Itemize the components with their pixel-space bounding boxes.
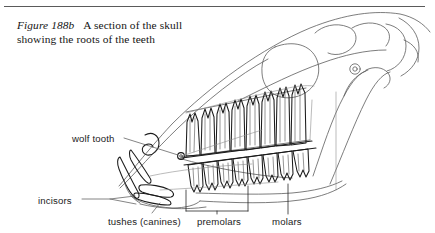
leader-incisors-branch xyxy=(110,199,136,204)
upper-incisors-group xyxy=(118,150,151,198)
occipital-outline xyxy=(386,24,406,71)
leader-incisors xyxy=(82,196,135,199)
lower-tooth-3 xyxy=(218,159,233,188)
orbit-outline xyxy=(262,44,319,98)
mandible-condyle xyxy=(366,68,390,88)
upper-tooth-8 xyxy=(291,84,306,145)
upper-tooth-5 xyxy=(246,95,260,150)
wolf-tooth-mark xyxy=(178,153,185,160)
mandible-coronoid xyxy=(344,71,366,96)
lower-tooth-5 xyxy=(248,155,263,184)
mandible-ramus-outline-2 xyxy=(330,72,390,184)
auditory-foramen-inner-icon xyxy=(353,67,357,71)
label-molars: molars xyxy=(272,216,302,227)
skull-dorsal-outline xyxy=(119,13,430,186)
cranium-outline xyxy=(315,25,356,55)
lower-tooth-8 xyxy=(293,149,309,177)
lower-tooth-7 xyxy=(278,151,293,180)
mandible-symphysis xyxy=(131,196,200,208)
lower-tooth-6 xyxy=(263,153,278,182)
upper-tooth-1 xyxy=(186,113,200,156)
occipital-ridge-line xyxy=(399,18,419,76)
lower-teeth-group xyxy=(188,149,309,192)
auditory-foramen-icon xyxy=(350,64,360,74)
mandible-ramus-outline xyxy=(313,70,368,176)
upper-tooth-4 xyxy=(231,99,245,151)
cranium-ridge xyxy=(352,23,390,46)
upper-tooth-3 xyxy=(216,103,230,153)
leader-tushes xyxy=(152,203,160,213)
label-tushes-canines: tushes (canines) xyxy=(108,216,181,227)
label-wolf-tooth: wolf tooth xyxy=(72,133,115,144)
upper-tooth-7 xyxy=(276,87,290,146)
upper-tooth-2 xyxy=(201,108,215,155)
label-incisors: incisors xyxy=(38,195,72,206)
leader-wolf-tooth xyxy=(124,138,178,155)
section-cut-line xyxy=(310,100,312,140)
upper-tooth-6 xyxy=(261,91,275,148)
figure-page: Figure 188bA section of the skull showin… xyxy=(0,0,435,233)
lower-tooth-4 xyxy=(233,157,248,186)
facial-crest-line xyxy=(238,50,386,101)
label-premolars: premolars xyxy=(197,216,241,227)
leader-lines xyxy=(82,138,178,213)
